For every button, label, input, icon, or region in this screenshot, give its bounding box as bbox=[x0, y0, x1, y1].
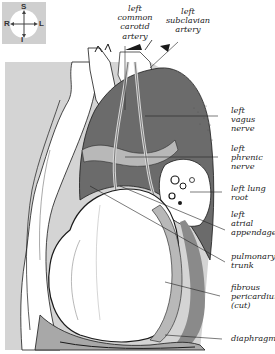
label-left-common-carotid-artery: left common carotid artery bbox=[110, 4, 160, 41]
label-left-phrenic-nerve: left phrenic nerve bbox=[231, 144, 263, 172]
label-left-subclavian-artery: left subclavian artery bbox=[160, 7, 216, 35]
label-left-lung-root: left lung root bbox=[231, 184, 266, 202]
label-fibrous-pericardium: fibrous pericardium (cut) bbox=[231, 283, 275, 311]
label-pulmonary-trunk: pulmonary trunk bbox=[231, 252, 275, 270]
label-left-vagus-nerve: left vagus nerve bbox=[231, 106, 255, 134]
label-diaphragm: diaphragm bbox=[231, 334, 275, 343]
label-left-atrial-appendage: left atrial appendage bbox=[231, 210, 275, 238]
